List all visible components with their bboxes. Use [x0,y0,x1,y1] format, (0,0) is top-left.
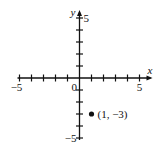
points: (1, −3) [89,108,128,121]
x-tick-label: −5 [11,81,23,93]
x-tick-label: 5 [137,81,143,93]
y-axis-arrow-icon [77,10,82,16]
data-point-label: (1, −3) [98,108,128,121]
x-axis-arrow-icon [147,76,153,81]
x-axis-label: x [147,64,153,76]
origin-label: 0 [72,81,78,93]
y-tick-label: 5 [84,12,90,24]
y-axis-label: y [70,6,76,18]
coordinate-plane: x y 0 −555−5 (1, −3) [0,0,157,154]
y-tick-label: −5 [65,132,77,144]
data-point [89,111,94,116]
axes [18,10,153,140]
